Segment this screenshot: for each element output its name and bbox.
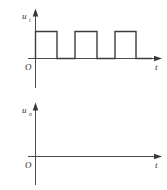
input-pulse-waveform	[36, 32, 153, 59]
output-plot-y-label: u	[22, 105, 27, 115]
waveform-figure: u i t O u o t O	[0, 0, 167, 190]
figure-canvas: u i t O u o t O	[0, 0, 167, 190]
input-plot-y-label-subscript: i	[29, 17, 31, 23]
input-plot-x-label: t	[155, 62, 158, 72]
output-plot-y-label-subscript: o	[29, 111, 32, 117]
output-plot-x-axis-arrow-icon	[154, 154, 162, 160]
output-plot-y-axis-arrow-icon	[33, 103, 39, 111]
input-plot-y-label: u	[22, 11, 27, 21]
input-plot-origin-label: O	[25, 62, 32, 72]
input-plot-x-axis-arrow-icon	[154, 56, 162, 62]
output-plot: u o t O	[22, 103, 162, 186]
input-plot: u i t O	[22, 9, 162, 89]
input-plot-y-axis-arrow-icon	[33, 9, 39, 17]
output-plot-origin-label: O	[25, 160, 32, 170]
output-plot-x-label: t	[155, 160, 158, 170]
